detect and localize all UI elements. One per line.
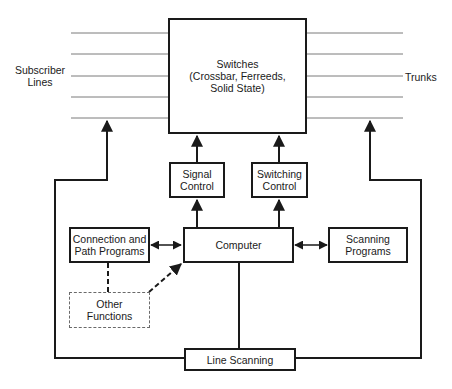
switching-control-box: Switching Control: [251, 162, 308, 198]
other-functions-box: Other Functions: [69, 292, 150, 328]
line-scanning-box: Line Scanning: [184, 348, 296, 371]
other-to-computer-dashed-arrow: [149, 264, 181, 292]
scanning-programs-box: Scanning Programs: [328, 227, 408, 263]
computer-box: Computer: [183, 227, 294, 263]
subscriber-line-wires: [71, 33, 168, 118]
connection-path-programs-box: Connection and Path Programs: [69, 227, 150, 263]
subscriber-lines-label: Subscriber Lines: [12, 64, 68, 88]
trunks-label: Trunks: [405, 71, 445, 83]
switches-box: Switches (Crossbar, Ferreeds, Solid Stat…: [168, 18, 307, 134]
signal-control-box: Signal Control: [169, 162, 225, 198]
trunk-wires: [306, 33, 403, 118]
